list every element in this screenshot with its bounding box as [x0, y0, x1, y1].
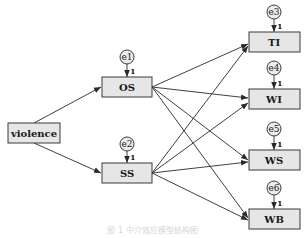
error-e5: e5	[267, 122, 281, 136]
error-e4: e4	[267, 61, 281, 75]
loading-e6: 1	[277, 198, 283, 208]
path-os-wi	[152, 87, 248, 98]
path-violence-ss	[34, 143, 101, 173]
path-ss-wi	[152, 103, 248, 173]
error-e3-label: e3	[268, 7, 279, 17]
loading-e5: 1	[277, 139, 283, 149]
loading-e1: 1	[130, 66, 136, 76]
loading-e2: 1	[130, 152, 136, 162]
node-violence-label: violence	[10, 128, 57, 139]
node-wi: WI	[249, 89, 300, 109]
error-e1: e1	[120, 50, 134, 64]
node-wi-label: WI	[265, 94, 282, 105]
node-ws-label: WS	[264, 155, 283, 166]
node-violence: violence	[8, 123, 60, 143]
error-e5-label: e5	[268, 124, 279, 134]
error-e6: e6	[267, 181, 281, 195]
path-os-ws	[152, 87, 248, 160]
path-ss-ws	[152, 162, 248, 173]
error-e1-label: e1	[121, 52, 132, 62]
figure-caption: 图 1 中介效应模型结构图	[0, 224, 305, 235]
error-e6-label: e6	[268, 183, 279, 193]
loading-e3: 1	[277, 21, 283, 31]
path-violence-os	[34, 87, 101, 123]
node-ti: TI	[249, 32, 300, 52]
error-e4-label: e4	[268, 63, 279, 73]
node-os: OS	[102, 77, 152, 97]
node-ss-label: SS	[120, 168, 134, 179]
node-wb-label: WB	[263, 214, 284, 225]
node-ss: SS	[102, 163, 152, 183]
loading-e4: 1	[277, 78, 283, 88]
node-ws: WS	[249, 150, 300, 170]
node-os-label: OS	[119, 82, 135, 93]
path-ss-wb	[152, 173, 248, 220]
sem-diagram: 1 1 1 1 1 1 violence OS SS TI WI WS WB e…	[0, 0, 305, 238]
error-e2-label: e2	[121, 139, 132, 149]
path-os-wb	[152, 87, 248, 218]
error-e2: e2	[120, 137, 134, 151]
error-e3: e3	[267, 5, 281, 19]
node-ti-label: TI	[268, 37, 280, 48]
